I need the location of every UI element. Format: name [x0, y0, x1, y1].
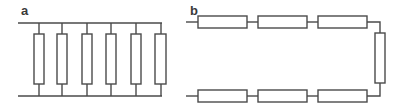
series-resistor-7: [198, 90, 247, 102]
parallel-circuit: [18, 23, 166, 96]
series-resistor-1: [198, 16, 247, 28]
series-resistor-4: [375, 33, 385, 83]
series-resistor-5: [318, 90, 367, 102]
parallel-resistor-6: [155, 23, 166, 96]
series-resistor-2: [258, 16, 307, 28]
parallel-resistor-5: [131, 23, 141, 96]
circuit-diagram: [0, 0, 400, 106]
series-resistor-6: [258, 90, 307, 102]
series-circuit: [186, 16, 385, 102]
parallel-resistor-3: [82, 23, 92, 96]
parallel-resistor-4: [106, 23, 116, 96]
parallel-resistor-1: [34, 23, 44, 96]
series-resistor-3: [318, 16, 367, 28]
parallel-resistor-2: [57, 23, 67, 96]
